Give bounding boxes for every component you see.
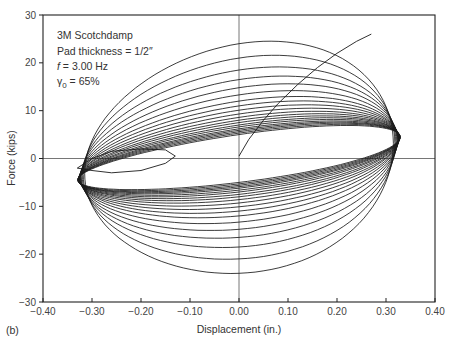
x-tick-label: −0.20 — [128, 306, 154, 317]
x-tick-label: 0.10 — [278, 306, 298, 317]
y-tick-label: −10 — [19, 201, 36, 212]
y-tick-label: −20 — [19, 249, 36, 260]
annotation-frequency: f = 3.00 Hz — [57, 60, 108, 72]
x-tick-label: 0.00 — [229, 306, 249, 317]
annotation-block: 3M Scotchdamp Pad thickness = 1/2″ f = 3… — [57, 29, 153, 90]
annotation-pad-thickness: Pad thickness = 1/2″ — [57, 45, 153, 57]
initial-loading-curve — [239, 34, 371, 156]
x-tick-label: −0.30 — [79, 306, 105, 317]
x-tick-label: −0.40 — [30, 306, 56, 317]
y-axis-title: Force (kips) — [5, 130, 17, 185]
annotation-material: 3M Scotchdamp — [57, 29, 133, 41]
y-tick-label: 10 — [25, 105, 37, 116]
x-axis-title: Displacement (in.) — [197, 323, 282, 335]
y-tick-label: 30 — [25, 10, 37, 21]
hysteresis-chart: −0.40−0.30−0.20−0.100.000.100.200.300.40… — [0, 0, 452, 349]
y-tick-label: 20 — [25, 57, 37, 68]
x-axis-ticks: −0.40−0.30−0.20−0.100.000.100.200.300.40 — [30, 298, 445, 317]
x-tick-label: 0.20 — [327, 306, 347, 317]
annotation-strain: γ0 = 65% — [57, 75, 100, 90]
x-tick-label: 0.40 — [425, 306, 445, 317]
x-tick-label: 0.30 — [376, 306, 396, 317]
panel-label: (b) — [6, 324, 19, 336]
y-axis-ticks: 3020100−10−20−30 — [19, 10, 43, 308]
x-tick-label: −0.10 — [177, 306, 203, 317]
y-tick-label: −30 — [19, 297, 36, 308]
y-tick-label: 0 — [30, 153, 36, 164]
